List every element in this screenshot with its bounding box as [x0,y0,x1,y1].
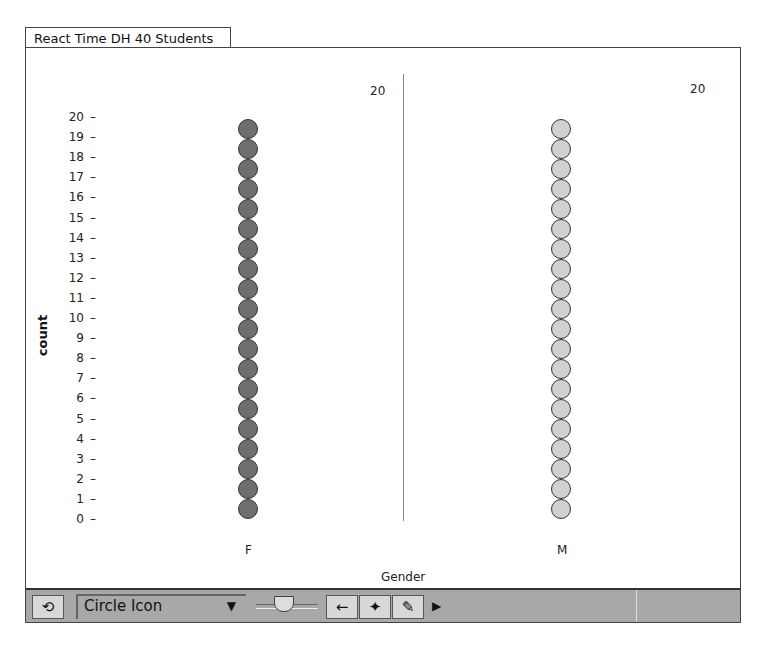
data-point-circle[interactable] [238,439,258,459]
data-point-circle[interactable] [238,239,258,259]
pencil-icon: ✎ [402,598,415,616]
data-point-circle[interactable] [551,179,571,199]
y-axis-label: count [35,315,50,356]
icon-size-slider[interactable] [256,600,318,612]
icon-type-value: Circle Icon [84,597,162,615]
y-tick: 18– [56,150,96,164]
y-tick: 0– [56,512,96,526]
triangle-down-icon: ▼ [227,596,236,617]
data-point-circle[interactable] [551,339,571,359]
group-count-m: 20 [690,82,705,96]
plot-area: count 20–19–18–17–16–15–14–13–12–11–10–9… [26,48,740,588]
icon-type-select[interactable]: Circle Icon ▼ [76,594,246,619]
data-point-circle[interactable] [238,279,258,299]
data-point-circle[interactable] [551,159,571,179]
y-tick: 17– [56,170,96,184]
data-point-circle[interactable] [238,119,258,139]
data-point-circle[interactable] [551,199,571,219]
category-label-f: F [245,543,252,557]
data-point-circle[interactable] [551,299,571,319]
more-triangle-icon[interactable]: ▶ [432,599,441,613]
y-tick: 16– [56,190,96,204]
group-count-f: 20 [370,84,385,98]
y-tick: 15– [56,211,96,225]
data-point-circle[interactable] [238,219,258,239]
data-point-circle[interactable] [238,339,258,359]
y-tick: 9– [56,331,96,345]
data-point-circle[interactable] [551,259,571,279]
data-point-circle[interactable] [551,459,571,479]
data-point-circle[interactable] [238,419,258,439]
y-tick: 7– [56,371,96,385]
data-point-circle[interactable] [551,419,571,439]
y-tick: 1– [56,492,96,506]
data-point-circle[interactable] [551,439,571,459]
data-point-circle[interactable] [551,359,571,379]
back-arrow-icon: ← [336,598,349,616]
bottom-toolbar: ⟲ Circle Icon ▼ ← ✦ ✎ ▶ [26,588,740,622]
data-point-circle[interactable] [551,219,571,239]
data-point-circle[interactable] [238,359,258,379]
y-tick: 19– [56,130,96,144]
y-tick: 6– [56,391,96,405]
y-tick: 20– [56,110,96,124]
data-point-circle[interactable] [238,499,258,519]
crosshair-icon: ✦ [369,598,382,616]
y-tick: 4– [56,432,96,446]
data-point-circle[interactable] [551,119,571,139]
slider-thumb[interactable] [274,596,294,612]
x-axis-label: Gender [381,570,425,584]
y-tick: 10– [56,311,96,325]
data-point-circle[interactable] [551,479,571,499]
data-point-circle[interactable] [551,379,571,399]
back-arrow-button[interactable]: ← [326,595,358,619]
data-point-circle[interactable] [551,239,571,259]
group-divider [403,74,404,521]
data-point-circle[interactable] [238,319,258,339]
data-point-circle[interactable] [551,319,571,339]
data-point-circle[interactable] [238,399,258,419]
y-tick: 2– [56,472,96,486]
refresh-button[interactable]: ⟲ [32,595,64,619]
data-point-circle[interactable] [238,259,258,279]
data-point-circle[interactable] [238,179,258,199]
data-point-circle[interactable] [551,399,571,419]
data-point-circle[interactable] [551,139,571,159]
y-tick: 12– [56,271,96,285]
y-tick: 11– [56,291,96,305]
window-title-tab[interactable]: React Time DH 40 Students [25,27,231,48]
data-point-circle[interactable] [238,379,258,399]
y-tick: 3– [56,452,96,466]
pencil-button[interactable]: ✎ [392,595,424,619]
category-label-m: M [557,543,567,557]
data-point-circle[interactable] [238,479,258,499]
crosshair-button[interactable]: ✦ [359,595,391,619]
rotate-arrows-icon: ⟲ [42,598,55,616]
data-point-circle[interactable] [238,459,258,479]
toolbar-separator [636,590,637,622]
data-point-circle[interactable] [551,499,571,519]
plot-frame: count 20–19–18–17–16–15–14–13–12–11–10–9… [25,47,741,623]
y-tick: 14– [56,231,96,245]
data-point-circle[interactable] [238,299,258,319]
data-point-circle[interactable] [238,159,258,179]
data-point-circle[interactable] [551,279,571,299]
data-point-circle[interactable] [238,139,258,159]
data-point-circle[interactable] [238,199,258,219]
y-tick: 8– [56,351,96,365]
y-tick: 13– [56,251,96,265]
y-tick: 5– [56,412,96,426]
